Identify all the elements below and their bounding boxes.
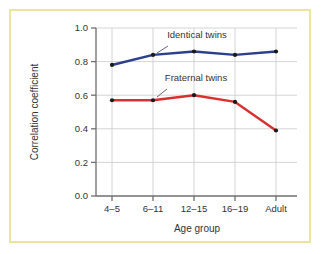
data-point-marker — [192, 49, 196, 53]
y-tick-label: 1.0 — [75, 22, 88, 33]
y-axis-title: Correlation coefficient — [29, 64, 40, 161]
data-point-marker — [274, 49, 278, 53]
x-axis-tick-labels: 4–56–1112–1516–19Adult — [104, 203, 287, 214]
x-tick-label: 4–5 — [104, 203, 120, 214]
x-axis-title: Age group — [174, 223, 221, 234]
figure-root: 0.00.20.40.60.81.0 4–56–1112–1516–19Adul… — [0, 0, 322, 254]
data-point-marker — [151, 98, 155, 102]
line-chart: 0.00.20.40.60.81.0 4–56–1112–1516–19Adul… — [0, 0, 322, 254]
x-tick-label: Adult — [265, 203, 287, 214]
x-axis-ticks — [112, 196, 276, 201]
data-point-marker — [151, 53, 155, 57]
series-annotation-label: Identical twins — [167, 29, 227, 40]
data-point-marker — [274, 128, 278, 132]
data-point-marker — [192, 93, 196, 97]
series-annotations: Identical twinsFraternal twins — [157, 29, 227, 97]
y-tick-label: 0.8 — [75, 56, 88, 67]
data-point-marker — [233, 100, 237, 104]
x-tick-label: 6–11 — [143, 203, 163, 214]
annotation-leader-line — [157, 89, 167, 97]
y-axis-ticks — [91, 28, 96, 196]
x-tick-label: 12–15 — [181, 203, 207, 214]
data-point-marker — [110, 63, 114, 67]
annotation-leader-line — [157, 46, 168, 53]
y-tick-label: 0.4 — [75, 123, 88, 134]
x-tick-label: 16–19 — [222, 203, 248, 214]
y-tick-label: 0.0 — [75, 190, 88, 201]
y-tick-label: 0.6 — [75, 90, 88, 101]
series-annotation-label: Fraternal twins — [165, 72, 228, 83]
data-point-marker — [233, 53, 237, 57]
y-tick-label: 0.2 — [75, 157, 88, 168]
y-axis-tick-labels: 0.00.20.40.60.81.0 — [75, 22, 88, 201]
data-point-marker — [110, 98, 114, 102]
